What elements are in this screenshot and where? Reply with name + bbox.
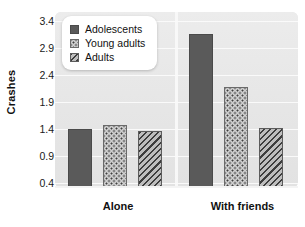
legend-swatch-solid-icon	[70, 25, 79, 34]
group-divider	[175, 12, 178, 188]
x-axis-category-with-friends: With friends	[190, 200, 295, 212]
bar-alone-young-adults	[103, 125, 127, 188]
legend-label: Young adults	[85, 38, 145, 49]
y-axis-tick-label: 3.4	[24, 16, 54, 27]
legend-label: Adolescents	[85, 24, 142, 35]
bar-alone-adolescents	[68, 129, 92, 188]
legend-swatch-hatched-icon	[70, 53, 79, 62]
legend-swatch-dotted-icon	[70, 39, 79, 48]
legend-item-adults: Adults	[70, 50, 145, 64]
bar-withfriends-adults	[259, 128, 283, 188]
axis-baseline	[55, 186, 298, 188]
y-axis-tick-label: 1.4	[24, 124, 54, 135]
y-axis-tick-label: 0.9	[24, 151, 54, 162]
bar-chart: Crashes 3.4 2.9 2.4 1.9 1.4 0.9 0.4 Alon…	[0, 0, 305, 227]
y-axis-title: Crashes	[5, 57, 17, 127]
y-axis-tick-label: 2.4	[24, 70, 54, 81]
bar-withfriends-young-adults	[224, 87, 248, 188]
bar-withfriends-adolescents	[189, 34, 213, 188]
y-axis-tick-label: 1.9	[24, 97, 54, 108]
legend-label: Adults	[85, 52, 114, 63]
y-axis-tick-label: 0.4	[24, 178, 54, 189]
bar-alone-adults	[138, 131, 162, 188]
y-axis-tick-label: 2.9	[24, 43, 54, 54]
legend-item-adolescents: Adolescents	[70, 22, 145, 36]
legend-item-young-adults: Young adults	[70, 36, 145, 50]
chart-legend: Adolescents Young adults Adults	[62, 16, 157, 70]
x-axis-category-alone: Alone	[68, 200, 168, 212]
